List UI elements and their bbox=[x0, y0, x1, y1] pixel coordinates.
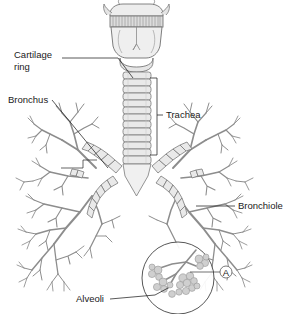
label-cartilage-ring-line2: ring bbox=[14, 61, 30, 72]
hyoid-body bbox=[110, 4, 163, 16]
label-bronchus: Bronchus bbox=[8, 94, 48, 105]
alveoli-inset bbox=[142, 242, 214, 314]
cartilage-rings bbox=[123, 72, 151, 164]
respiratory-tract-diagram: A Cartilage ring Bronchus Trachea Bronch… bbox=[0, 0, 289, 314]
trachea bbox=[123, 72, 151, 166]
label-bronchiole: Bronchiole bbox=[238, 200, 283, 211]
inset-circle bbox=[142, 242, 214, 314]
label-cartilage-ring-line1: Cartilage bbox=[14, 49, 52, 60]
label-alveoli: Alveoli bbox=[76, 293, 104, 304]
marker-letter: A bbox=[223, 267, 230, 278]
label-trachea: Trachea bbox=[166, 109, 201, 120]
